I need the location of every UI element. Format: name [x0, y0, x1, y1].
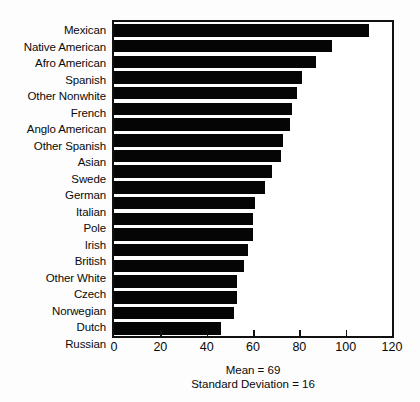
bar: [114, 40, 332, 53]
x-tick-mark: [207, 330, 209, 338]
category-label: Other White: [0, 270, 106, 287]
x-tick-label: 0: [111, 340, 118, 354]
bar: [114, 244, 248, 257]
x-tick-label: 20: [153, 340, 167, 354]
bar: [114, 181, 265, 194]
category-label: Afro American: [0, 55, 106, 72]
x-tick-mark: [299, 330, 301, 338]
category-label: Mexican: [0, 22, 106, 39]
bar: [114, 322, 221, 335]
category-label: Spanish: [0, 72, 106, 89]
bar-row: [114, 305, 392, 321]
category-label: British: [0, 253, 106, 270]
bar-row: [114, 116, 392, 132]
bar: [114, 165, 272, 178]
category-label: French: [0, 105, 106, 122]
bar-row: [114, 22, 392, 38]
x-tick-label: 40: [200, 340, 214, 354]
bar: [114, 103, 292, 116]
category-label: German: [0, 187, 106, 204]
category-label: Norwegian: [0, 303, 106, 320]
bars-area: [114, 22, 392, 336]
category-label: Italian: [0, 204, 106, 221]
bar: [114, 24, 369, 37]
bar: [114, 291, 237, 304]
bar: [114, 197, 255, 210]
bar-row: [114, 226, 392, 242]
bar-row: [114, 148, 392, 164]
bar: [114, 134, 283, 147]
x-tick-mark: [253, 330, 255, 338]
category-label: Russian: [0, 336, 106, 353]
bar: [114, 118, 290, 131]
bar: [114, 307, 234, 320]
bar: [114, 260, 244, 273]
bar: [114, 87, 297, 100]
category-label: Other Nonwhite: [0, 88, 106, 105]
bar-row: [114, 53, 392, 69]
category-label: Pole: [0, 220, 106, 237]
bar-row: [114, 242, 392, 258]
bar-row: [114, 163, 392, 179]
bar: [114, 150, 281, 163]
bar-row: [114, 289, 392, 305]
chart-footnote: Mean = 69 Standard Deviation = 16: [112, 364, 394, 391]
bar: [114, 275, 237, 288]
x-tick-label: 100: [335, 340, 356, 354]
bar-row: [114, 69, 392, 85]
bar: [114, 228, 253, 241]
bar-row: [114, 85, 392, 101]
category-label: Other Spanish: [0, 138, 106, 155]
x-tick-label: 120: [382, 340, 403, 354]
bar-row: [114, 273, 392, 289]
x-tick-label: 60: [246, 340, 260, 354]
bar: [114, 56, 316, 69]
bar-row: [114, 258, 392, 274]
bar-row: [114, 38, 392, 54]
category-axis-labels: MexicanNative AmericanAfro AmericanSpani…: [0, 22, 106, 336]
category-label: Czech: [0, 286, 106, 303]
stddev-text: Standard Deviation = 16: [112, 378, 394, 392]
x-tick-mark: [346, 330, 348, 338]
x-tick-mark: [160, 330, 162, 338]
category-label: Irish: [0, 237, 106, 254]
bar-row: [114, 195, 392, 211]
category-label: Dutch: [0, 319, 106, 336]
category-label: Anglo American: [0, 121, 106, 138]
bar-chart-figure: MexicanNative AmericanAfro AmericanSpani…: [0, 0, 420, 402]
category-label: Native American: [0, 39, 106, 56]
bar-row: [114, 132, 392, 148]
bar-row: [114, 210, 392, 226]
mean-text: Mean = 69: [112, 364, 394, 378]
bar: [114, 71, 302, 84]
category-label: Asian: [0, 154, 106, 171]
bar-row: [114, 101, 392, 117]
clipped-title-remnant: [112, 0, 394, 1]
x-tick-label: 80: [292, 340, 306, 354]
bar-row: [114, 179, 392, 195]
category-label: Swede: [0, 171, 106, 188]
bar: [114, 213, 253, 226]
